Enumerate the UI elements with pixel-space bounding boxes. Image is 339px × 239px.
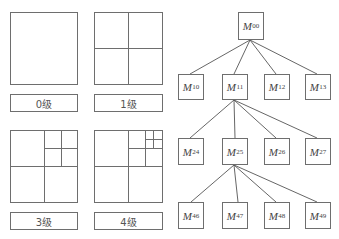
grid-level-0: [11, 13, 78, 85]
tree-node-l2-0: M24: [178, 138, 204, 165]
tree-node-l2-2: M26: [264, 138, 290, 165]
level-label-text: 0级: [36, 96, 52, 111]
tree-node-l2-3: M27: [305, 138, 331, 165]
tree-node-l1-0: M10: [178, 74, 204, 100]
level-label-0: 0级: [10, 94, 78, 112]
grid-level-4: [95, 131, 163, 203]
tree-node-l3-2: M48: [264, 202, 290, 229]
tree-edges: [190, 40, 317, 202]
tree-node-l3-3: M49: [305, 202, 331, 229]
tree-node-l1-3: M13: [305, 74, 331, 100]
level-label-3: 3级: [10, 212, 78, 230]
tree-node-l3-0: M46: [178, 202, 204, 229]
level-label-1: 1级: [94, 94, 163, 112]
tree-node-l1-1: M11: [222, 74, 248, 100]
grid-level-3: [11, 131, 78, 203]
level-label-text: 4级: [120, 214, 136, 229]
level-label-text: 1级: [120, 96, 136, 111]
level-label-4: 4级: [94, 212, 163, 230]
tree-node-l2-1: M25: [222, 138, 248, 165]
tree-node-l1-2: M12: [264, 74, 290, 100]
grid-level-1: [95, 13, 163, 85]
level-label-text: 3级: [36, 214, 52, 229]
tree-node-l3-1: M47: [222, 202, 248, 229]
tree-node-root: M00: [238, 12, 264, 40]
